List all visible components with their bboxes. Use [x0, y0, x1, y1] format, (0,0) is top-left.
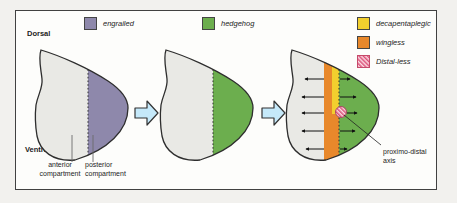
hedgehog-region [339, 48, 384, 164]
hedgehog-swatch-icon [202, 17, 215, 30]
decapentaplegic-stripe [332, 48, 339, 114]
engrailed-swatch-icon [84, 17, 97, 30]
legend-item-engrailed: engrailed [84, 17, 134, 30]
engrailed-region [88, 48, 133, 164]
anterior-compartment-label: anterior compartment [37, 161, 83, 178]
decapentaplegic-swatch-icon [357, 17, 370, 30]
decapentaplegic-label: decapentaplegic [376, 20, 431, 28]
wing-disc-engrailed [33, 48, 133, 164]
wingless-label: wingless [376, 39, 405, 47]
wing-disc-hedgehog [158, 48, 258, 164]
figure: engrailed hedgehog decapentaplegic wingl… [0, 0, 457, 203]
posterior-compartment-label: posterior compartment [85, 161, 129, 178]
hedgehog-label: hedgehog [221, 20, 254, 28]
legend-item-hedgehog: hedgehog [202, 17, 254, 30]
dorsal-label: Dorsal [27, 30, 50, 38]
legend-item-decapentaplegic: decapentaplegic [357, 17, 431, 30]
engrailed-label: engrailed [103, 20, 134, 28]
wing-disc-signaling [284, 48, 384, 164]
hedgehog-region [213, 48, 258, 164]
proximo-distal-axis-label: proximo-distal axis [383, 148, 439, 165]
flow-arrow-icon [134, 97, 160, 129]
